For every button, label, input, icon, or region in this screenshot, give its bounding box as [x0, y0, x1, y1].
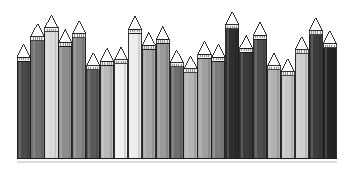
- pencil-body-shade: [96, 70, 98, 158]
- pencil-body-highlight: [283, 76, 285, 158]
- pencil-body-shade: [27, 61, 29, 158]
- pencil-body-highlight: [46, 32, 48, 158]
- baseline-shadow: [17, 161, 337, 163]
- pencil-bar: [240, 35, 253, 158]
- pencil-bar: [59, 29, 72, 158]
- pencil-body-shade: [305, 54, 307, 158]
- pencil-bar: [212, 44, 225, 158]
- pencil-body-highlight: [311, 35, 313, 158]
- pencil-bar: [226, 12, 239, 158]
- pencil-body-shade: [124, 64, 126, 158]
- pencil-bar: [128, 16, 141, 158]
- pencil-body-shade: [55, 32, 57, 158]
- pencil-bar: [114, 47, 127, 158]
- pencil-body-highlight: [74, 38, 76, 158]
- pencil-bar: [184, 56, 197, 158]
- pencil-body-highlight: [269, 70, 271, 158]
- pencil-bar: [73, 21, 86, 158]
- pencil-body-shade: [69, 46, 71, 158]
- pencil-body-shade: [235, 29, 237, 158]
- pencil-bar: [170, 50, 183, 158]
- pencil-body-shade: [222, 61, 224, 158]
- pencil-body-highlight: [158, 43, 160, 158]
- pencil-body-highlight: [88, 70, 90, 158]
- pencil-body-highlight: [116, 64, 118, 158]
- pencil-bar: [323, 31, 336, 158]
- pencil-body-shade: [277, 70, 279, 158]
- pencil-body-shade: [208, 58, 210, 158]
- pencil-body-shade: [82, 38, 84, 158]
- pencil-body-highlight: [144, 49, 146, 158]
- pencil-body-shade: [152, 49, 154, 158]
- pencil-body-shade: [249, 52, 251, 158]
- pencil-bar: [267, 53, 280, 158]
- pencil-bar: [31, 24, 44, 158]
- pencil-bar: [100, 48, 113, 158]
- pencil-body-highlight: [241, 52, 243, 158]
- pencil-body-shade: [110, 65, 112, 158]
- pencil-body-highlight: [297, 54, 299, 158]
- pencil-bar: [254, 22, 267, 158]
- pencil-bar: [142, 32, 155, 158]
- pencil-bar: [295, 37, 308, 158]
- pencil-bar: [45, 15, 58, 158]
- pencil-bar: [198, 41, 211, 158]
- pencil-body-shade: [263, 39, 265, 158]
- pencil-body-highlight: [199, 58, 201, 158]
- pencil-body-highlight: [130, 33, 132, 158]
- pencil-body-shade: [138, 33, 140, 158]
- pencil-body-highlight: [255, 39, 257, 158]
- pencil-bar: [87, 53, 100, 158]
- pencil-body-highlight: [19, 61, 21, 158]
- pencil-bar: [17, 44, 30, 158]
- pencil-body-shade: [180, 67, 182, 158]
- pencil-body-highlight: [213, 61, 215, 158]
- pencil-body-shade: [333, 48, 335, 158]
- pencil-body-highlight: [325, 48, 327, 158]
- pencil-body-highlight: [102, 65, 104, 158]
- pencil-body-shade: [319, 35, 321, 158]
- pencil-body-shade: [291, 76, 293, 158]
- pencil-body-shade: [41, 41, 43, 158]
- pencil-body-highlight: [60, 46, 62, 158]
- pencil-bar: [281, 59, 294, 158]
- pencil-body-shade: [194, 73, 196, 158]
- pencil-body-highlight: [33, 41, 35, 158]
- pencil-body-highlight: [186, 73, 188, 158]
- pencil-bar-chart-figure: [0, 0, 356, 171]
- pencil-bar: [309, 18, 322, 158]
- pencil-body-shade: [166, 43, 168, 158]
- pencil-body-highlight: [172, 67, 174, 158]
- pencil-body-highlight: [227, 29, 229, 158]
- pencil-bar: [156, 26, 169, 158]
- pencil-bar-chart: [0, 0, 356, 171]
